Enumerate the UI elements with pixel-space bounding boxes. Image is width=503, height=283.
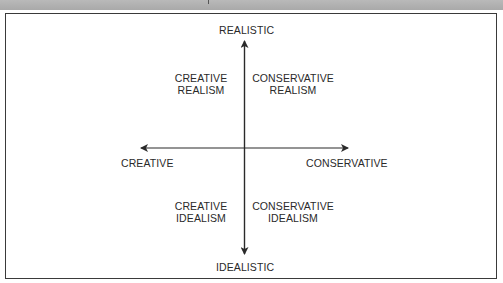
axes (0, 0, 503, 283)
quadrant-top-left: CREATIVE REALISM (165, 72, 237, 96)
quadrant-bottom-right: CONSERVATIVE IDEALISM (250, 200, 336, 224)
axis-label-bottom: IDEALISTIC (216, 261, 274, 273)
quadrant-top-right: CONSERVATIVE REALISM (250, 72, 336, 96)
axis-label-right: CONSERVATIVE (306, 157, 388, 169)
quadrant-bottom-left: CREATIVE IDEALISM (165, 200, 237, 224)
axis-label-top: REALISTIC (219, 24, 274, 36)
axis-label-left: CREATIVE (121, 157, 174, 169)
